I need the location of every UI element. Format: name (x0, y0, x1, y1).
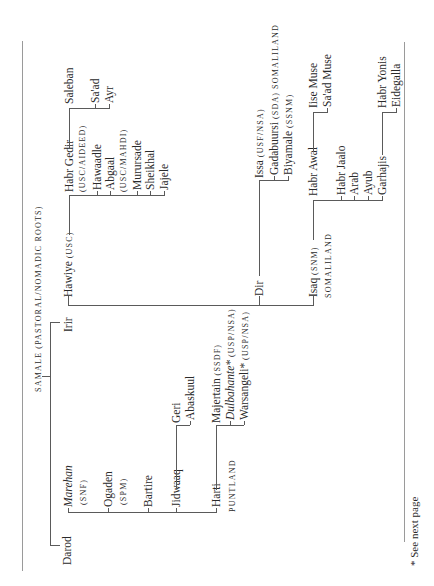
isaq-children-line (313, 200, 383, 201)
tick-arab (354, 196, 355, 200)
garhajis-link (382, 112, 383, 155)
sub-abgaal: (usc/Mahdi) (118, 129, 130, 192)
habr-awal-children-line (313, 112, 328, 113)
tick-marehan (68, 508, 69, 512)
node-darod: Darod (61, 536, 73, 565)
party-ogaden: (spm) (118, 478, 130, 505)
node-hawaadle: Hawaadle (91, 144, 103, 190)
party-marehan: (snf) (78, 479, 90, 505)
majertain-name: Majertain (210, 378, 222, 423)
dir-link (259, 180, 260, 276)
tick-biyamale (288, 176, 289, 181)
node-gadabuursi: Gadabuursi (sda) somaliland (268, 24, 282, 175)
node-abaskuul: Abaskuul (184, 376, 196, 420)
darod-bracket (50, 545, 60, 546)
habr-awal-link (313, 112, 314, 152)
node-biyamale: Biyamale (ssnm) (282, 94, 296, 175)
node-eidegalla: Eidegalla (390, 64, 402, 107)
tick-abaskuul (190, 421, 191, 425)
footnote: * See next page (408, 497, 420, 566)
isaq-link (313, 200, 314, 240)
node-saad: Sa'ad (89, 79, 101, 103)
habr-gedir-link (69, 108, 70, 148)
warsangeli-party: (usp/nsa) (241, 311, 250, 360)
tick-sheikhal (150, 191, 151, 195)
node-dulbahante: Dulbahante* (usp/nsa) (224, 308, 238, 420)
right-border (404, 42, 405, 542)
tick-eidegalla (396, 108, 397, 113)
node-bartire: Bartire (142, 475, 154, 507)
clan-tree-page: samale (pastoral/nomadic roots) Darod Ma… (0, 0, 434, 586)
tick-garhajis (382, 196, 383, 201)
tick-gadabuursi (274, 176, 275, 180)
tick-ayub (368, 196, 369, 200)
hawiye-children-line (69, 195, 165, 196)
node-geri: Geri (170, 403, 182, 423)
issa-name: Issa (253, 160, 265, 178)
region-somaliland-isaq: somaliland (323, 233, 335, 298)
root-vertical-line (50, 322, 51, 546)
node-saad-muse: Sa'ad Muse (321, 54, 333, 107)
gadabuursi-party: (sda) (271, 92, 280, 119)
node-habr-awal: Habr Awal (307, 147, 319, 196)
biyamale-name: Biyamale (282, 131, 294, 175)
root-title-tick (42, 376, 50, 377)
isaq-name: Isaq (307, 278, 319, 297)
dulbahante-party: (usp/nsa) (227, 308, 236, 357)
tick-hawaadle (97, 191, 98, 195)
dulbahante-name: Dulbahante* (224, 360, 236, 420)
tick-ayr (109, 104, 110, 109)
harti-children-line (216, 425, 244, 426)
tick-habr-jaalo (341, 196, 342, 200)
gadabuursi-region: somaliland (271, 24, 280, 89)
node-irir: Irir (62, 317, 74, 332)
tick-ogaden (108, 508, 109, 512)
node-habr-yonis: Habr Yonis (376, 56, 388, 108)
region-puntland: puntland (227, 459, 239, 512)
node-abgaal: Abgaal (104, 157, 116, 190)
node-murursade: Murursade (131, 140, 143, 190)
node-dir: Dir (253, 281, 265, 296)
irir-bracket (50, 322, 60, 323)
tick-abgaal (110, 191, 111, 195)
irir-children-line (68, 305, 314, 306)
darod-children-line (68, 512, 217, 513)
majertain-party: (ssdf) (213, 344, 222, 376)
node-ayub: Ayub (362, 171, 374, 196)
node-hawiye: Hawiye (usc) (62, 231, 76, 297)
issa-party: (usf/nsa) (256, 108, 265, 157)
habr-gedir-children-line (69, 108, 110, 109)
warsangeli-name: Warsangeli* (238, 363, 250, 420)
node-marehan: Marehan (62, 465, 74, 507)
node-jajele: Jajele (158, 164, 170, 190)
biyamale-party: (ssnm) (285, 94, 294, 128)
hawiye-name: Hawiye (62, 261, 74, 297)
hawiye-party: (usc) (65, 231, 74, 258)
node-majertain: Majertain (ssdf) (210, 344, 224, 423)
left-border (22, 41, 23, 571)
tick-jajele (164, 191, 165, 196)
dir-tick (259, 296, 260, 305)
node-arab: Arab (348, 172, 360, 195)
node-warsangeli: Warsangeli* (usp/nsa) (238, 311, 252, 420)
isaq-party: (snm) (310, 246, 319, 275)
node-isaq: Isaq (snm) (307, 246, 321, 297)
tick-murursade (137, 191, 138, 195)
node-iise-muse: Iise Muse (307, 63, 319, 108)
hawiye-link (69, 195, 70, 235)
harti-link (216, 425, 217, 490)
node-habr-jaalo: Habr Jaalo (335, 146, 347, 196)
dir-children-line (259, 180, 289, 181)
hawiye-tick (68, 296, 69, 305)
tick-dulbahante (230, 421, 231, 425)
diagram-title: samale (pastoral/nomadic roots) (33, 205, 45, 392)
tick-jidwaaq (176, 508, 177, 512)
node-sheikhal: Sheikhal (144, 150, 156, 190)
isaq-tick (313, 296, 314, 306)
tick-bartire (148, 508, 149, 512)
node-ogaden: Ogaden (102, 471, 114, 507)
node-ayr: Ayr (103, 86, 115, 103)
node-issa: Issa (usf/nsa) (253, 108, 267, 178)
tick-warsangeli (244, 421, 245, 425)
node-saleban: Saleban (63, 68, 75, 104)
